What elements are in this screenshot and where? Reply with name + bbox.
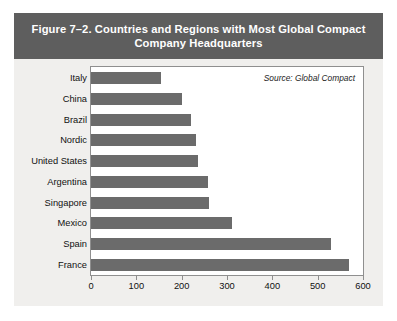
bar [91, 259, 349, 271]
chart-area: Source: Global Compact ItalyChinaBrazilN… [14, 59, 383, 306]
bar [91, 72, 161, 84]
x-tick-mark [272, 276, 273, 280]
x-axis: 0100200300400500600 [90, 276, 364, 302]
bar-row: Spain [91, 234, 331, 255]
category-label: Brazil [64, 114, 87, 126]
category-label: Spain [63, 238, 87, 250]
category-label: China [63, 93, 87, 105]
category-label: Italy [70, 72, 87, 84]
category-label: Argentina [47, 176, 87, 188]
bar [91, 93, 182, 105]
category-label: Mexico [58, 217, 87, 229]
figure-title-line-1: Figure 7–2. Countries and Regions with M… [31, 23, 365, 35]
bar-row: Mexico [91, 213, 232, 234]
x-tick-label: 0 [88, 281, 93, 291]
figure-title: Figure 7–2. Countries and Regions with M… [31, 22, 365, 51]
bar [91, 217, 232, 229]
category-label: Singapore [45, 197, 87, 209]
x-tick-label: 600 [355, 281, 371, 291]
x-tick-mark [227, 276, 228, 280]
category-label: Nordic [60, 134, 87, 146]
x-tick-label: 200 [174, 281, 190, 291]
x-tick-mark [91, 276, 92, 280]
bar-row: Brazil [91, 109, 191, 130]
bar [91, 134, 196, 146]
bar [91, 238, 331, 250]
bar-row: United States [91, 151, 198, 172]
x-tick-label: 100 [129, 281, 145, 291]
plot-frame: Source: Global Compact ItalyChinaBrazilN… [90, 66, 364, 276]
x-tick-mark [182, 276, 183, 280]
figure-title-band: Figure 7–2. Countries and Regions with M… [14, 13, 383, 59]
x-tick-label: 500 [310, 281, 326, 291]
bars-layer: ItalyChinaBrazilNordicUnited StatesArgen… [91, 67, 363, 275]
x-tick-mark [318, 276, 319, 280]
category-label: France [58, 259, 87, 271]
bar-row: China [91, 89, 182, 110]
x-tick-mark [136, 276, 137, 280]
bar [91, 176, 208, 188]
bar-row: Argentina [91, 172, 208, 193]
bar-row: France [91, 254, 349, 275]
figure-title-line-2: Company Headquarters [134, 37, 262, 49]
figure-container: Figure 7–2. Countries and Regions with M… [14, 13, 383, 306]
bar [91, 155, 198, 167]
bar-row: Singapore [91, 192, 209, 213]
x-tick-label: 400 [265, 281, 281, 291]
category-label: United States [31, 155, 87, 167]
bar [91, 197, 209, 209]
x-tick-label: 300 [219, 281, 235, 291]
bar [91, 114, 191, 126]
x-tick-mark [363, 276, 364, 280]
bar-row: Nordic [91, 130, 196, 151]
bar-row: Italy [91, 68, 161, 89]
